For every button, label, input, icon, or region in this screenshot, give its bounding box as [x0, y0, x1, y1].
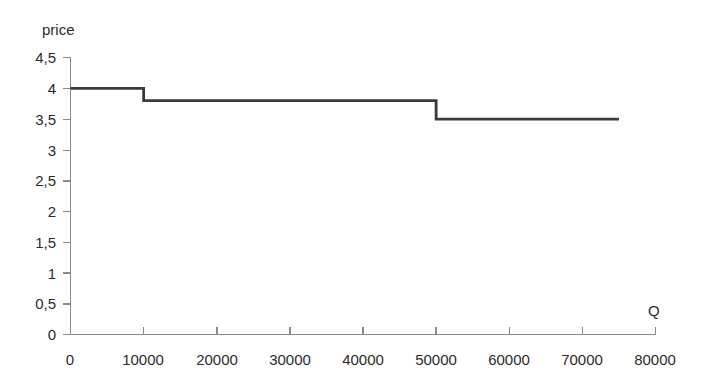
x-tick-label-60000: 60000	[469, 352, 549, 367]
y-axis-ticks	[63, 89, 71, 335]
y-tick-label-1-5: 1,5	[10, 235, 56, 250]
y-tick-label-3: 3	[10, 143, 56, 158]
price-step-chart: price Q 4,5 4 3,5 3 2,5 2 1,5 1 0,5 0 0 …	[0, 0, 705, 387]
y-tick-label-4: 4	[10, 81, 56, 96]
x-tick-label-80000: 80000	[615, 352, 695, 367]
x-tick-label-70000: 70000	[542, 352, 622, 367]
x-tick-label-10000: 10000	[103, 352, 183, 367]
x-axis-ticks	[71, 327, 656, 335]
x-tick-label-20000: 20000	[177, 352, 257, 367]
x-axis-title: Q	[648, 303, 660, 318]
y-tick-label-2-5: 2,5	[10, 173, 56, 188]
y-axis-title: price	[42, 22, 75, 37]
price-step-line	[71, 88, 619, 119]
y-tick-label-0: 0	[10, 327, 56, 342]
x-tick-label-50000: 50000	[396, 352, 476, 367]
y-tick-label-0-5: 0,5	[10, 296, 56, 311]
x-tick-label-0: 0	[30, 352, 110, 367]
y-tick-label-2: 2	[10, 204, 56, 219]
y-tick-label-4-5: 4,5	[10, 50, 56, 65]
y-tick-label-1: 1	[10, 266, 56, 281]
y-tick-label-3-5: 3,5	[10, 112, 56, 127]
x-tick-label-40000: 40000	[323, 352, 403, 367]
chart-plot-area	[0, 0, 705, 387]
x-tick-label-30000: 30000	[250, 352, 330, 367]
